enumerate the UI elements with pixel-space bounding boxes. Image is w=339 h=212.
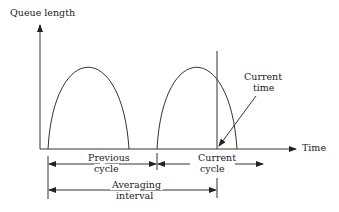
previous-cycle-label-2: cycle: [94, 164, 119, 174]
x-axis-label: Time: [302, 143, 326, 153]
current-time-label-2: time: [253, 83, 275, 93]
queue-cycle-diagram: [0, 0, 339, 212]
averaging-label-1: Averaging: [110, 180, 163, 190]
current-cycle-curve: [157, 67, 237, 149]
current-cycle-label-1: Current: [196, 153, 238, 163]
averaging-label-2: interval: [116, 191, 153, 201]
current-cycle-label-2: cycle: [200, 164, 225, 174]
previous-cycle-label-1: Previous: [86, 153, 132, 163]
current-time-label-1: Current: [244, 72, 282, 82]
current-time-pointer: [219, 96, 256, 146]
previous-cycle-curve: [48, 67, 129, 149]
y-axis-label: Queue length: [10, 8, 75, 18]
